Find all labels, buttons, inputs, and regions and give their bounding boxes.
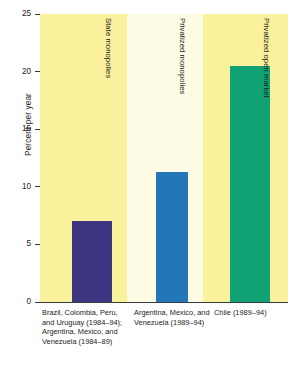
y-axis-tick-label: 25 (22, 9, 31, 19)
bar-chart-figure: Percent per year 2520151050 State monopo… (0, 0, 296, 368)
group-label: Privatized monopolies (178, 18, 187, 94)
x-axis-baseline (40, 302, 288, 303)
column-caption: Chile (1989–94) (214, 308, 294, 318)
bar (156, 172, 188, 302)
y-axis-ticks: 2520151050 (0, 0, 40, 368)
y-axis-tick-label: 5 (26, 239, 31, 249)
group-label: Privatized open market (262, 18, 271, 98)
bar (72, 221, 112, 302)
column-caption: Brazil, Colombia, Peru, and Uruguay (198… (42, 308, 128, 346)
y-axis-tick-label: 20 (22, 67, 31, 77)
column-caption: Argentina, Mexico, and Venezuela (1989–9… (134, 308, 212, 327)
group-label: State monopolies (104, 18, 113, 78)
bar (230, 66, 270, 302)
plot-area: State monopoliesPrivatized monopoliesPri… (40, 14, 288, 302)
y-axis-tick-label: 10 (22, 182, 31, 192)
y-axis-tick-label: 0 (26, 297, 31, 307)
y-axis-tick-label: 15 (22, 124, 31, 134)
